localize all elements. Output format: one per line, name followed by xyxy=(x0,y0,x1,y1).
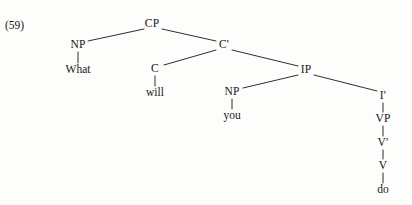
node-c: C xyxy=(151,63,159,75)
branch-cbar-to-ip xyxy=(232,50,298,66)
diagonal-branch-group xyxy=(88,29,377,91)
node-np-subject: NP xyxy=(224,86,239,98)
terminal-you: you xyxy=(223,110,240,122)
node-ip: IP xyxy=(301,64,312,76)
node-c-bar: C' xyxy=(219,39,229,51)
node-cp: CP xyxy=(145,18,159,30)
branch-ip-to-np-subj xyxy=(243,75,298,88)
branch-ip-to-ibar xyxy=(314,75,377,91)
node-v: V xyxy=(379,160,388,172)
syntax-tree-figure: (59) CP NP What C' C will IP NP you I' V… xyxy=(0,0,412,205)
node-v-bar: V' xyxy=(378,137,389,149)
terminal-do: do xyxy=(377,184,389,196)
terminal-will: will xyxy=(146,87,164,99)
terminal-what: What xyxy=(66,64,91,76)
node-vp: VP xyxy=(375,113,390,125)
node-np-specifier: NP xyxy=(70,39,85,51)
node-i-bar: I' xyxy=(380,90,386,102)
branch-cp-to-np-spec xyxy=(88,29,144,41)
branch-cbar-to-c xyxy=(164,50,216,65)
tree-branch-lines xyxy=(0,0,412,205)
branch-cp-to-cbar xyxy=(162,29,216,41)
